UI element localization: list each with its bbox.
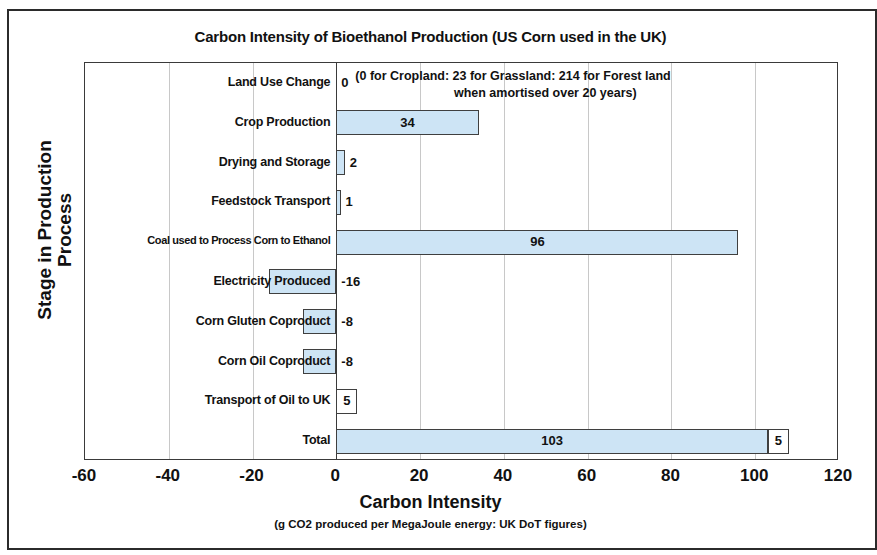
bar-2 [336, 150, 344, 175]
bar-value-label-5: -16 [341, 275, 360, 288]
bar-value-label-0: 0 [341, 76, 348, 89]
bar-value-label-4: 96 [336, 235, 738, 248]
bar-value-label-2: 2 [350, 156, 357, 169]
category-label-0: Land Use Change [0, 76, 330, 89]
bar-value-label-3: 1 [346, 195, 353, 208]
gridline-60 [588, 63, 589, 459]
x-axis-title: Carbon Intensity [0, 492, 861, 513]
x-tick-label-6: 60 [577, 466, 596, 486]
bar-value-label-9: 103 [336, 434, 767, 447]
bar-value-label-1: 34 [336, 116, 478, 129]
gridline-80 [671, 63, 672, 459]
x-tick-label-0: -60 [72, 466, 97, 486]
bar-3 [336, 190, 340, 215]
x-axis-tick-group: -60-40-20020406080100120 [84, 466, 838, 492]
category-label-9: Total [0, 434, 330, 447]
chart-title: Carbon Intensity of Bioethanol Productio… [0, 28, 861, 45]
bar-value-label-6: -8 [341, 315, 353, 328]
x-tick-label-9: 120 [824, 466, 852, 486]
category-label-7: Corn Oil Coproduct [0, 355, 330, 368]
x-tick-label-4: 20 [410, 466, 429, 486]
land-use-change-annotation: (0 for Cropland: 23 for Grassland: 214 f… [355, 68, 670, 102]
gridline-40 [504, 63, 505, 459]
x-tick-label-1: -40 [155, 466, 180, 486]
category-label-8: Transport of Oil to UK [0, 394, 330, 407]
x-tick-label-3: 0 [331, 466, 340, 486]
x-tick-label-5: 40 [493, 466, 512, 486]
x-tick-label-8: 100 [740, 466, 768, 486]
bar-value-label-8: 5 [336, 394, 357, 407]
category-label-6: Corn Gluten Coproduct [0, 315, 330, 328]
annotation-line-2: when amortised over 20 years) [355, 85, 670, 102]
x-tick-label-2: -20 [239, 466, 264, 486]
x-tick-label-7: 80 [661, 466, 680, 486]
category-label-4: Coal used to Process Corn to Ethanol [0, 235, 330, 246]
category-label-5: Electricity Produced [0, 275, 330, 288]
category-label-3: Feedstock Transport [0, 195, 330, 208]
bar-value-label-7: -8 [341, 355, 353, 368]
annotation-line-1: (0 for Cropland: 23 for Grassland: 214 f… [355, 69, 670, 83]
x-axis-subtitle: (g CO2 produced per MegaJoule energy: UK… [0, 518, 861, 530]
total-extra-segment-label: 5 [768, 434, 789, 447]
gridline-100 [755, 63, 756, 459]
category-label-2: Drying and Storage [0, 156, 330, 169]
category-label-1: Crop Production [0, 116, 330, 129]
